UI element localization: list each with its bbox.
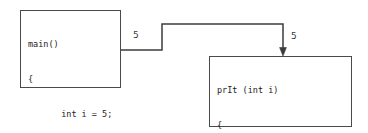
callee-code-box: prIt (int i) { printf ("%d\n",i); return… — [209, 56, 352, 127]
argument-label-target: 5 — [291, 31, 297, 41]
code-line: int i = 5; — [28, 109, 112, 121]
argument-label-source: 5 — [133, 30, 139, 40]
arrowhead-icon — [280, 48, 287, 57]
diagram-canvas: main() { int i = 5; prIt (i); return; } … — [0, 0, 368, 133]
code-line: prIt (int i) — [217, 85, 342, 97]
code-line: main() — [28, 39, 112, 51]
caller-code-box: main() { int i = 5; prIt (i); return; } — [20, 10, 121, 88]
caller-code-lines: main() { int i = 5; prIt (i); return; } — [28, 16, 112, 133]
code-line: { — [28, 74, 112, 86]
connector-path — [121, 24, 283, 50]
code-line: { — [217, 120, 342, 132]
callee-code-lines: prIt (int i) { printf ("%d\n",i); return… — [217, 62, 342, 133]
